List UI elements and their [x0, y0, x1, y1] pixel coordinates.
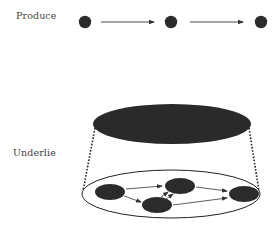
micro-node-lower-middle — [142, 197, 172, 213]
micro-node-upper-middle — [165, 178, 195, 194]
top-node-1 — [79, 16, 91, 28]
top-row — [79, 16, 267, 28]
top-node-3 — [255, 16, 267, 28]
top-node-2 — [165, 16, 177, 28]
projection-line-right — [249, 128, 259, 191]
projection-line-left — [83, 128, 95, 191]
macro-ellipse — [93, 104, 251, 144]
micro-node-left — [95, 184, 125, 200]
micro-node-right — [229, 186, 259, 202]
emergence-diagram — [0, 0, 279, 226]
